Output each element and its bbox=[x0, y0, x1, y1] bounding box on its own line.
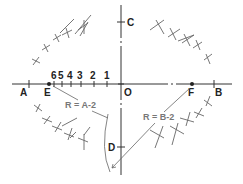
division-6: 6 bbox=[51, 70, 57, 81]
label-c: C bbox=[127, 17, 134, 28]
radius-a2: R = A-2 bbox=[53, 86, 110, 172]
ellipse-points-upper-left bbox=[32, 15, 91, 65]
label-o: O bbox=[124, 87, 132, 98]
radius-label-left: R = A-2 bbox=[65, 100, 96, 110]
division-2: 2 bbox=[90, 70, 96, 81]
ellipse-points-lower-right bbox=[150, 96, 212, 148]
label-e: E bbox=[44, 87, 51, 98]
division-4: 4 bbox=[67, 70, 73, 81]
ellipse-points-upper-right bbox=[150, 20, 212, 64]
label-d: D bbox=[108, 142, 115, 153]
division-5: 5 bbox=[58, 70, 64, 81]
ellipse-points-lower-left bbox=[34, 104, 90, 150]
radius-label-right: R = B-2 bbox=[143, 112, 174, 122]
ellipse-construction-diagram: A E O F B C D 6 5 4 3 2 1 R = A-2 R = B-… bbox=[0, 0, 243, 184]
division-1: 1 bbox=[104, 70, 110, 81]
division-labels: 6 5 4 3 2 1 bbox=[51, 70, 110, 81]
focus-e-dot bbox=[47, 82, 51, 86]
radius-b2: R = B-2 bbox=[112, 88, 190, 168]
focus-f-dot bbox=[190, 82, 194, 86]
label-a: A bbox=[20, 87, 27, 98]
division-3: 3 bbox=[77, 70, 83, 81]
label-b: B bbox=[215, 87, 222, 98]
